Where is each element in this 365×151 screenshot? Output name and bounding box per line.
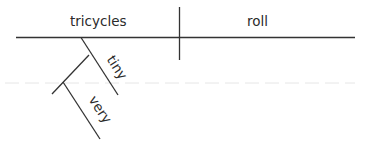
- diagram-lines: [0, 0, 365, 151]
- sentence-diagram: tricycles roll tiny very: [0, 0, 365, 151]
- subject-word: tricycles: [70, 15, 127, 29]
- adverb-connector-line: [52, 55, 89, 94]
- predicate-word: roll: [247, 15, 268, 29]
